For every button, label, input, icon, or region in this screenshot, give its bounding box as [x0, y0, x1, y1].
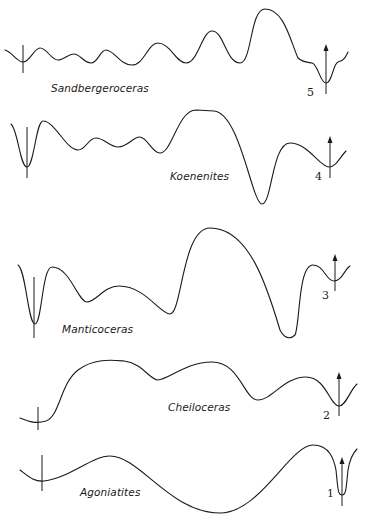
suture-diagram: Sandbergeroceras 5 Koenenites 4 Manticoc…	[0, 0, 365, 522]
suture-line	[20, 360, 357, 422]
suture-agoniatites	[20, 445, 357, 513]
suture-number-5: 5	[307, 86, 314, 99]
arrow-up-icon	[333, 254, 338, 261]
suture-number-1: 1	[327, 487, 334, 500]
genus-label-cheiloceras: Cheiloceras	[168, 401, 230, 413]
suture-number-3: 3	[322, 289, 329, 302]
suture-line	[11, 110, 346, 204]
arrow-up-icon	[340, 457, 345, 464]
suture-number-4: 4	[315, 170, 322, 183]
genus-label-sandbergeroceras: Sandbergeroceras	[51, 82, 149, 94]
suture-line	[5, 9, 348, 83]
arrow-up-icon	[337, 372, 342, 379]
suture-cheiloceras	[20, 360, 357, 430]
suture-number-2: 2	[323, 409, 330, 422]
arrow-up-icon	[328, 136, 333, 143]
suture-canvas	[0, 0, 365, 522]
suture-koenenites	[11, 110, 346, 204]
suture-line	[18, 228, 350, 338]
genus-label-manticoceras: Manticoceras	[62, 323, 133, 335]
suture-manticoceras	[18, 228, 350, 338]
suture-line	[20, 445, 357, 513]
genus-label-koenenites: Koenenites	[170, 170, 229, 182]
genus-label-agoniatites: Agoniatites	[80, 486, 140, 498]
arrow-up-icon	[324, 44, 329, 51]
